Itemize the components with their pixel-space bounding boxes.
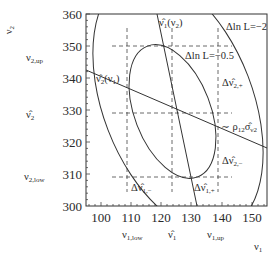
nu1-low-label: ν1,low xyxy=(122,229,143,242)
x-tick-100: 100 xyxy=(91,210,111,225)
nu1-hat-label: ν̂1 xyxy=(168,229,177,242)
line-nu2-label: ν̂2(ν1) xyxy=(96,73,120,86)
x-tick-150: 150 xyxy=(242,210,262,225)
y-tick-320: 320 xyxy=(63,135,83,150)
x-axis-label: ν1 xyxy=(254,241,263,254)
nu2-low-label: ν2,low xyxy=(24,171,45,184)
y-tick-300: 300 xyxy=(63,199,83,214)
contour-inner-label: Δln L=−0.5 xyxy=(185,50,234,61)
nu2-hat-label: ν̂2 xyxy=(26,109,35,122)
plot-annotations: Δln L=−2 Δln L=−0.5 ν̂1(ν2) ν̂2(ν1) Δν̂2… xyxy=(96,17,267,195)
rho-sigma-label: ∼ ρ12σ̂ν2 xyxy=(221,121,258,134)
y-tick-340: 340 xyxy=(63,71,83,86)
likelihood-contour-diagram: 100 110 120 130 140 150 360 350 340 330 … xyxy=(0,0,275,256)
y-axis-label: ν2 xyxy=(3,25,16,34)
delta-nu1-minus-label: Δν̂1,− xyxy=(131,182,152,195)
y-tick-360: 360 xyxy=(63,7,83,22)
delta-nu2-minus-label: Δν̂2,− xyxy=(222,155,243,168)
y-tick-labels: 360 350 340 330 320 310 300 xyxy=(63,7,83,214)
x-tick-130: 130 xyxy=(181,210,201,225)
contour-outer-label: Δln L=−2 xyxy=(226,21,267,32)
delta-nu1-plus-label: Δν̂1,+ xyxy=(194,182,215,195)
nu1-up-label: ν1,up xyxy=(207,229,225,242)
y-tick-330: 330 xyxy=(63,103,83,118)
left-side-labels: ν2 ν2,up ν̂2 ν2,low xyxy=(3,25,45,184)
x-tick-140: 140 xyxy=(212,210,232,225)
y-tick-350: 350 xyxy=(63,39,83,54)
x-tick-labels: 100 110 120 130 140 150 xyxy=(91,210,262,225)
line-nu1-label: ν̂1(ν2) xyxy=(159,17,183,30)
y-tick-310: 310 xyxy=(63,167,83,182)
x-tick-110: 110 xyxy=(121,210,140,225)
bottom-labels: ν1,low ν̂1 ν1,up ν1 xyxy=(122,229,263,254)
nu2-up-label: ν2,up xyxy=(26,52,44,65)
x-tick-120: 120 xyxy=(151,210,171,225)
delta-nu2-plus-label: Δν̂2,+ xyxy=(222,77,243,90)
